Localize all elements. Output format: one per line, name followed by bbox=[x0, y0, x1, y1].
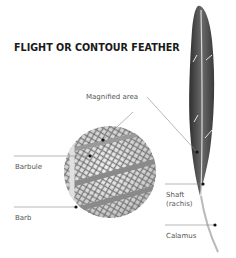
label-calamus: Calamus bbox=[166, 232, 196, 240]
feather-illustration bbox=[0, 0, 236, 258]
label-barb: Barb bbox=[15, 214, 31, 222]
feather-icon bbox=[189, 6, 218, 252]
label-rachis: (rachis) bbox=[166, 200, 193, 208]
label-barbule: Barbule bbox=[15, 163, 42, 171]
label-shaft: Shaft bbox=[166, 191, 184, 199]
label-magnified-area: Magnified area bbox=[86, 93, 138, 101]
magnified-barbs bbox=[60, 120, 170, 230]
